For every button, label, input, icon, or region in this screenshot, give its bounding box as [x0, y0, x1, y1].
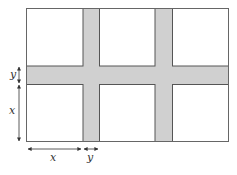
vertical-path-1 [83, 8, 99, 142]
left-y-label: y [9, 68, 17, 81]
left-x-label: x [9, 104, 16, 117]
garden-path-diagram: y x x y [0, 0, 237, 175]
horizontal-path [26, 66, 229, 84]
bottom-x-label: x [50, 151, 57, 164]
bottom-y-label: y [86, 151, 94, 164]
vertical-path-2 [155, 8, 172, 142]
